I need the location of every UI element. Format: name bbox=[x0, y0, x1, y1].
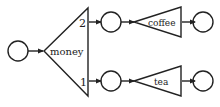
input-circle bbox=[8, 41, 28, 61]
coffee-label: coffee bbox=[148, 18, 176, 28]
out-top-circle bbox=[193, 12, 213, 32]
port-label-bottom: 1 bbox=[80, 76, 87, 89]
out-bottom-circle bbox=[193, 71, 213, 91]
port-label-top: 2 bbox=[79, 17, 86, 30]
mid-top-circle bbox=[101, 12, 121, 32]
money-label: money bbox=[50, 46, 84, 57]
tea-label: tea bbox=[154, 77, 169, 87]
mid-bottom-circle bbox=[101, 71, 121, 91]
string-diagram: money 2 1 coffee tea bbox=[0, 0, 220, 107]
